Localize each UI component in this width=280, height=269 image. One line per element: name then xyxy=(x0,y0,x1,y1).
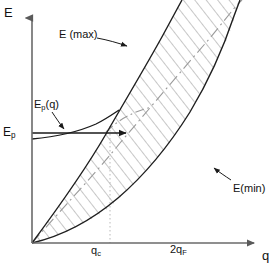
dispersion-figure: E q Ep Ep(q) E (max) E(min) qc 2qF xyxy=(0,0,280,269)
y-axis-label: E xyxy=(4,6,13,19)
qc-tick-label: qc xyxy=(91,245,101,257)
ep-tick-label: Ep xyxy=(3,126,16,140)
e-max-leader-line xyxy=(97,38,127,46)
e-min-leader-line xyxy=(214,168,231,180)
ep-q-leader-line xyxy=(52,112,64,129)
x-axis-label: q xyxy=(262,249,269,262)
figure-canvas xyxy=(0,0,280,269)
e-min-label: E(min) xyxy=(233,183,265,194)
plasmon-curve-label: Ep(q) xyxy=(34,99,59,111)
e-max-label: E (max) xyxy=(59,29,98,40)
two-qf-tick-label: 2qF xyxy=(170,244,187,256)
